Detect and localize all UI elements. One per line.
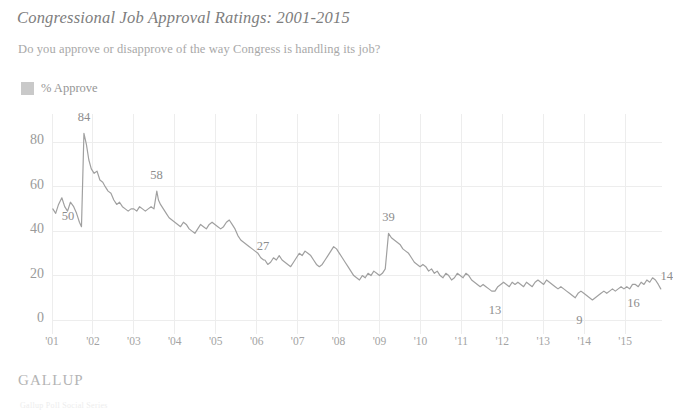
x-axis-tick-08: '08 xyxy=(332,335,346,347)
approval-line-chart xyxy=(0,110,671,365)
data-label-50: 50 xyxy=(62,209,75,224)
x-axis-tick-04: '04 xyxy=(168,335,182,347)
data-label-16: 16 xyxy=(627,296,640,311)
data-label-39: 39 xyxy=(382,210,395,225)
chart-gridlines xyxy=(52,114,662,334)
data-label-27: 27 xyxy=(257,239,270,254)
y-axis-tick-40: 40 xyxy=(14,221,44,237)
data-label-84: 84 xyxy=(78,110,91,125)
x-axis-tick-11: '11 xyxy=(455,335,468,347)
x-axis-tick-15: '15 xyxy=(618,335,632,347)
y-axis-tick-20: 20 xyxy=(14,266,44,282)
footer-source-note: Gallup Poll Social Series xyxy=(20,401,108,410)
page-title: Congressional Job Approval Ratings: 2001… xyxy=(17,8,350,28)
x-axis-tick-02: '02 xyxy=(86,335,100,347)
x-axis-tick-06: '06 xyxy=(250,335,264,347)
data-label-14: 14 xyxy=(661,269,673,284)
gallup-logo: GALLUP xyxy=(18,372,84,389)
chart-legend: % Approve xyxy=(21,81,98,96)
approval-series-line xyxy=(53,133,661,300)
square-swatch-icon xyxy=(21,82,34,95)
x-axis-tick-07: '07 xyxy=(291,335,305,347)
x-axis-tick-12: '12 xyxy=(496,335,510,347)
x-axis-tick-14: '14 xyxy=(577,335,591,347)
x-axis-tick-01: '01 xyxy=(45,335,59,347)
chart-subtitle: Do you approve or disapprove of the way … xyxy=(18,42,380,57)
x-axis-tick-13: '13 xyxy=(536,335,550,347)
data-label-13: 13 xyxy=(489,303,502,318)
chart-plot-area: 020406080 '01'02'03'04'05'06'07'08'09'10… xyxy=(0,110,671,365)
data-label-58: 58 xyxy=(150,168,163,183)
x-axis-tick-05: '05 xyxy=(209,335,223,347)
x-axis-tick-10: '10 xyxy=(414,335,428,347)
data-label-9: 9 xyxy=(576,313,582,328)
y-axis-tick-0: 0 xyxy=(14,310,44,326)
x-axis-tick-09: '09 xyxy=(373,335,387,347)
y-axis-tick-80: 80 xyxy=(14,132,44,148)
y-axis-tick-60: 60 xyxy=(14,177,44,193)
legend-item-label: % Approve xyxy=(41,81,98,96)
x-axis-tick-03: '03 xyxy=(127,335,141,347)
